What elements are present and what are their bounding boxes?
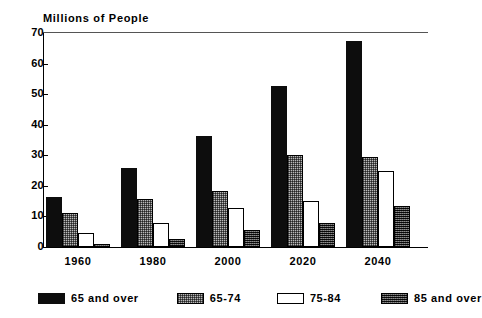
legend-item: 75-84 (277, 292, 341, 304)
bar (287, 155, 303, 247)
legend-label: 65 and over (71, 292, 139, 304)
x-axis-line (43, 247, 428, 248)
bar (46, 197, 62, 247)
y-tick-label: 0 (20, 241, 44, 252)
chart-legend: 65 and over65-7475-8485 and over (38, 289, 482, 307)
legend-item: 65 and over (38, 292, 139, 304)
bar-group (121, 33, 185, 247)
x-tick-label: 1980 (118, 255, 188, 267)
y-tick-label: 30 (20, 149, 44, 160)
bar-group (271, 33, 335, 247)
legend-label: 85 and over (414, 292, 482, 304)
bar (394, 206, 410, 247)
bar-group (46, 33, 110, 247)
bar (319, 223, 335, 247)
bar (212, 191, 228, 247)
x-tick-label: 1960 (43, 255, 113, 267)
bar (62, 213, 78, 247)
legend-swatch (38, 293, 65, 304)
y-tick-label: 70 (20, 27, 44, 38)
bar (378, 171, 394, 247)
bar (78, 233, 94, 247)
y-tick-label: 20 (20, 180, 44, 191)
bar-group (346, 33, 410, 247)
legend-item: 65-74 (177, 292, 241, 304)
bar (137, 199, 153, 247)
bar (169, 239, 185, 247)
x-tick-label: 2040 (343, 255, 413, 267)
bar (121, 168, 137, 247)
legend-item: 85 and over (381, 292, 482, 304)
bar (153, 223, 169, 247)
x-tick-label: 2000 (193, 255, 263, 267)
y-tick-label: 60 (20, 58, 44, 69)
y-tick-label: 10 (20, 210, 44, 221)
legend-label: 75-84 (310, 292, 341, 304)
bar (362, 157, 378, 247)
y-tick-label: 40 (20, 119, 44, 130)
bar (244, 230, 260, 247)
x-tick-label: 2020 (268, 255, 338, 267)
plot-area (44, 33, 428, 247)
bar (271, 86, 287, 247)
bar (303, 201, 319, 247)
legend-swatch (277, 293, 304, 304)
bar (228, 208, 244, 247)
bar (346, 41, 362, 247)
legend-label: 65-74 (210, 292, 241, 304)
chart-title: Millions of People (43, 12, 149, 24)
legend-swatch (177, 293, 204, 304)
bar (196, 136, 212, 247)
legend-swatch (381, 293, 408, 304)
bar-group (196, 33, 260, 247)
y-axis: 706050403020100 (8, 0, 44, 318)
y-tick-label: 50 (20, 88, 44, 99)
bar (94, 244, 110, 247)
